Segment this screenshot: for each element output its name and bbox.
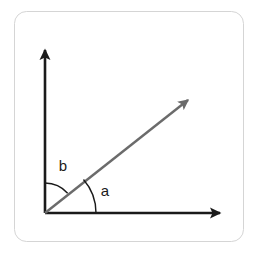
angle-diagram-figure: a b [0, 0, 258, 254]
angle-label-b: b [59, 157, 67, 174]
card-frame [15, 12, 244, 242]
angle-label-a: a [101, 182, 110, 199]
diagram-canvas: a b [0, 0, 258, 254]
